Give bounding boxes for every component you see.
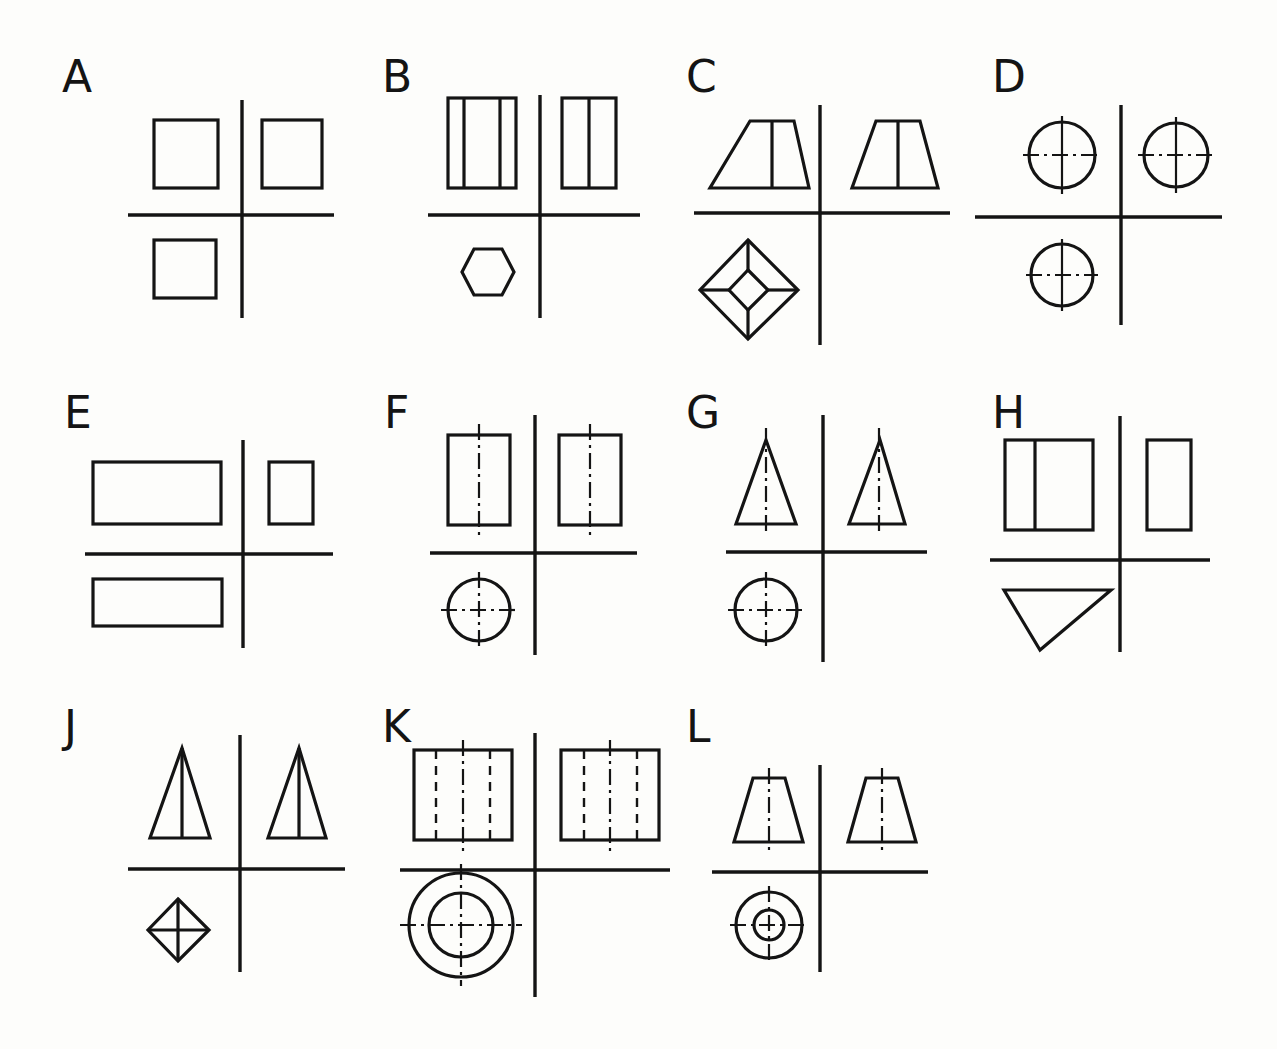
panel-label-C: C bbox=[686, 51, 717, 102]
panel-label-J: J bbox=[61, 701, 77, 752]
panel-label-F: F bbox=[384, 387, 410, 438]
panel-label-K: K bbox=[382, 701, 412, 752]
drawing-sheet: A B C bbox=[0, 0, 1277, 1049]
panel-label-G: G bbox=[686, 387, 721, 438]
panel-label-E: E bbox=[64, 387, 92, 438]
panel-label-A: A bbox=[62, 51, 93, 102]
panel-label-L: L bbox=[686, 701, 711, 752]
panel-label-H: H bbox=[992, 387, 1026, 438]
panel-label-D: D bbox=[992, 51, 1026, 102]
panel-label-B: B bbox=[382, 51, 413, 102]
orthographic-projection-sheet: A B C bbox=[0, 0, 1277, 1049]
